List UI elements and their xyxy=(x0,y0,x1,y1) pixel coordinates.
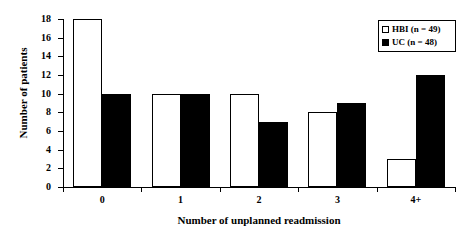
y-axis-tick: 16 xyxy=(58,38,63,39)
bar-uc-2 xyxy=(259,122,288,187)
x-axis-tick xyxy=(298,187,299,192)
y-axis-tick: 12 xyxy=(58,75,63,76)
y-axis-tick-label: 12 xyxy=(41,70,51,80)
legend-item-label: HBI (n = 49) xyxy=(392,25,440,34)
y-axis-tick-label: 10 xyxy=(41,89,51,99)
x-axis-tick xyxy=(377,187,378,192)
y-axis-tick: 4 xyxy=(58,150,63,151)
bar-uc-1 xyxy=(181,94,210,187)
y-axis-tick-label: 18 xyxy=(41,14,51,24)
y-axis-tick: 2 xyxy=(58,168,63,169)
y-axis-title: Number of patients xyxy=(14,0,32,188)
y-axis-tick-label: 0 xyxy=(46,182,51,192)
x-axis-tick xyxy=(141,187,142,192)
legend-item-label: UC (n = 48) xyxy=(392,38,437,47)
bar-chart: Number of patients 02468101214161801234+… xyxy=(0,0,469,239)
bar-hbi-2 xyxy=(230,94,259,187)
bar-uc-4plus xyxy=(416,75,445,187)
y-axis-tick: 8 xyxy=(58,112,63,113)
filled-square-icon xyxy=(382,39,389,46)
chart-legend: HBI (n = 49)UC (n = 48) xyxy=(378,20,456,52)
y-axis-tick: 14 xyxy=(58,56,63,57)
y-axis-tick-label: 6 xyxy=(46,126,51,136)
legend-item: UC (n = 48) xyxy=(382,36,452,49)
y-axis-tick-label: 14 xyxy=(41,51,51,61)
x-axis-tick xyxy=(220,187,221,192)
bar-uc-3 xyxy=(337,103,366,187)
x-axis-title: Number of unplanned readmission xyxy=(63,214,455,226)
y-axis-tick: 18 xyxy=(58,19,63,20)
x-axis-tick-label: 1 xyxy=(178,195,183,205)
bar-hbi-1 xyxy=(152,94,181,187)
bar-hbi-4plus xyxy=(387,159,416,187)
open-square-icon xyxy=(382,26,389,33)
bar-uc-0 xyxy=(102,94,131,187)
y-axis-tick: 6 xyxy=(58,131,63,132)
y-axis-tick-label: 2 xyxy=(46,163,51,173)
y-axis-tick-label: 8 xyxy=(46,107,51,117)
y-axis-tick: 10 xyxy=(58,94,63,95)
x-axis-tick-label: 0 xyxy=(100,195,105,205)
x-axis-line xyxy=(63,187,455,188)
bar-hbi-0 xyxy=(73,19,102,187)
x-axis-tick-label: 4+ xyxy=(410,195,421,205)
x-axis-tick xyxy=(63,187,64,192)
y-axis-tick-label: 4 xyxy=(46,145,51,155)
x-axis-tick-label: 3 xyxy=(335,195,340,205)
y-axis-tick-label: 16 xyxy=(41,33,51,43)
x-axis-tick xyxy=(455,187,456,192)
legend-item: HBI (n = 49) xyxy=(382,23,452,36)
x-axis-tick-label: 2 xyxy=(257,195,262,205)
bar-hbi-3 xyxy=(308,112,337,187)
